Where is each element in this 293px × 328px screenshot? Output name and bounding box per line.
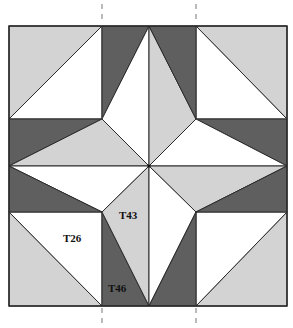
label-t46: T46 (108, 282, 127, 294)
label-t43: T43 (119, 209, 138, 221)
center-point (147, 164, 150, 167)
quilt-block-diagram: T26 T43 T46 (0, 0, 293, 328)
top-left-tile (9, 26, 102, 119)
top-right-tile (196, 26, 287, 119)
bottom-left-tile (9, 212, 102, 306)
label-t26: T26 (63, 232, 82, 244)
bottom-right-tile (196, 212, 287, 306)
